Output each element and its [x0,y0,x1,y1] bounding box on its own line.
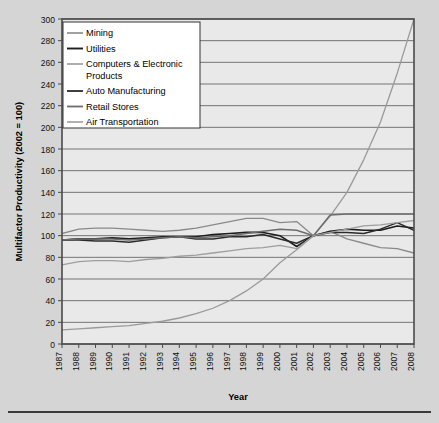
legend-label: Mining [86,28,113,38]
x-axis-tick-label: 1993 [155,352,165,371]
y-axis-tick-label: 160 [41,166,55,176]
x-axis-tick-label: 2007 [389,352,399,371]
y-axis-tick-label: 180 [41,145,55,155]
legend-label: Retail Stores [86,102,139,112]
x-axis-tick-label: 1987 [54,352,64,371]
x-axis-tick-label: 1990 [104,352,114,371]
legend-label: Computers & Electronic [86,59,183,69]
x-axis-title: Year [228,392,248,402]
y-axis-tick-label: 240 [41,80,55,90]
x-axis-tick-label: 2005 [356,352,366,371]
x-axis-tick-label: 1999 [255,352,265,371]
multifactor-productivity-line-chart: 0204060801001201401601802002202402602803… [0,0,439,423]
x-axis-tick-label: 1996 [205,352,215,371]
chart-figure: 0204060801001201401601802002202402602803… [0,0,439,423]
y-axis-tick-label: 260 [41,58,55,68]
y-axis-tick-label: 200 [41,123,55,133]
y-axis-tick-label: 20 [46,318,56,328]
x-axis-tick-label: 1989 [88,352,98,371]
x-axis-tick-label: 1992 [138,352,148,371]
legend-box [63,22,200,128]
x-axis-tick-label: 1988 [71,352,81,371]
x-axis-tick-label: 1994 [171,352,181,371]
x-axis-tick-label: 2003 [322,352,332,371]
y-axis-tick-label: 300 [41,15,55,25]
x-axis-tick-label: 2002 [305,352,315,371]
x-axis-tick-label: 2004 [339,352,349,371]
y-axis-tick-label: 120 [41,210,55,220]
x-axis-tick-label: 1995 [188,352,198,371]
x-axis-tick-label: 2001 [289,352,299,371]
footer-divider [8,411,431,413]
y-axis-tick-label: 60 [46,275,56,285]
x-axis-tick-label: 2008 [406,352,416,371]
y-axis-tick-label: 0 [50,340,55,350]
legend-label: Auto Manufacturing [86,86,166,96]
y-axis-tick-label: 40 [46,296,56,306]
legend-label: Products [86,71,123,81]
x-axis-tick-label: 2006 [372,352,382,371]
legend-label: Air Transportation [86,117,159,127]
x-axis-tick-label: 1991 [121,352,131,371]
x-axis-tick-label: 1997 [222,352,232,371]
legend-label: Utilities [86,44,116,54]
y-axis-tick-label: 280 [41,36,55,46]
y-axis-tick-label: 220 [41,101,55,111]
y-axis-tick-label: 80 [46,253,56,263]
y-axis-tick-label: 100 [41,231,55,241]
y-axis-title: Multifactor Productivity (2002 = 100) [14,102,24,261]
y-axis-tick-label: 140 [41,188,55,198]
x-axis-tick-label: 2000 [272,352,282,371]
x-axis-tick-label: 1998 [238,352,248,371]
